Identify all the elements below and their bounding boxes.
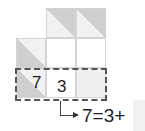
arrow-stem — [60, 101, 61, 116]
arrow-right-icon — [73, 112, 79, 118]
diagonal-split-icon — [17, 39, 45, 67]
empty-cell-r1c2 — [76, 38, 106, 68]
diagonal-split-icon — [47, 9, 75, 37]
equation-text: 7=3+ — [82, 106, 125, 125]
clue-cell-r1c0 — [16, 38, 46, 68]
clue-cell-r0c2 — [76, 8, 106, 38]
row-highlight-box — [15, 68, 107, 101]
empty-cell-r1c1 — [46, 38, 76, 68]
diagonal-split-icon — [77, 9, 105, 37]
clue-cell-r0c1 — [46, 8, 76, 38]
arrow-shaft — [60, 115, 74, 116]
answer-placeholder — [133, 100, 145, 131]
